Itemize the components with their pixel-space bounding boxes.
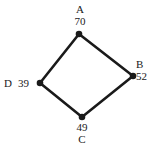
node-a-dot[interactable] xyxy=(76,31,83,38)
node-a-value: 70 xyxy=(68,15,92,27)
node-b-label: B xyxy=(136,58,154,70)
node-c-value: 49 xyxy=(70,121,94,133)
node-c-dot[interactable] xyxy=(79,114,86,121)
diagram-canvas: A 70 B 52 49 C D 39 xyxy=(0,0,164,153)
node-d-value: 39 xyxy=(18,77,38,89)
node-b-value: 52 xyxy=(136,70,160,82)
node-c-label: C xyxy=(72,133,92,145)
node-a-label: A xyxy=(70,3,90,15)
